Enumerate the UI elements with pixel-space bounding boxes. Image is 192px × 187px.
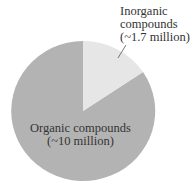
label-organic: Organic compounds (~10 million): [30, 122, 131, 148]
label-inorganic-line3: (~1.7 million): [120, 31, 190, 44]
label-inorganic: Inorganic compounds (~1.7 million): [120, 5, 190, 44]
label-organic-line2: (~10 million): [30, 135, 131, 148]
